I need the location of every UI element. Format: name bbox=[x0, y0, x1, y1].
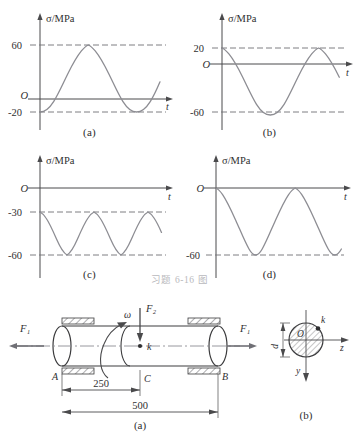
origin-label-c: O bbox=[20, 183, 28, 194]
dim-250-arrow-right bbox=[131, 387, 140, 392]
omega-arrow-head bbox=[117, 322, 127, 329]
y-axis-arrow-b bbox=[219, 13, 224, 20]
chart-panel-b: σ/MPa t 20 -60 O (b) bbox=[180, 0, 359, 150]
x-axis-arrow-b bbox=[346, 61, 353, 66]
point-k-label: k bbox=[147, 341, 152, 352]
ytick-a-neg20: -20 bbox=[8, 107, 22, 118]
diameter-arrow-top bbox=[281, 323, 286, 331]
chart-b-sublabel: (b) bbox=[180, 126, 359, 138]
curve-b bbox=[222, 48, 339, 115]
x-axis-label-c: t bbox=[168, 191, 171, 202]
origin-label-b: O bbox=[202, 59, 210, 70]
shaft-figure-sublabel: (a) bbox=[134, 419, 147, 432]
omega-label: ω bbox=[124, 309, 131, 320]
cross-section-sublabel: (b) bbox=[300, 409, 313, 422]
diameter-arrow-bottom bbox=[281, 349, 286, 357]
x-axis-label-b: t bbox=[346, 67, 349, 78]
support-left-top bbox=[62, 318, 94, 324]
y-axis-arrow-d bbox=[213, 155, 218, 162]
section-y-arrow bbox=[303, 373, 309, 382]
x-axis-arrow-c bbox=[166, 185, 173, 190]
origin-label-d: O bbox=[196, 183, 204, 194]
x-axis-arrow-d bbox=[344, 185, 351, 190]
y-axis-label-a: σ/MPa bbox=[46, 13, 75, 24]
y-axis-arrow-a bbox=[37, 13, 42, 20]
x-axis-label-d: t bbox=[344, 191, 347, 202]
y-axis-label-b: σ/MPa bbox=[228, 13, 257, 24]
dim-500-label: 500 bbox=[132, 400, 148, 411]
ytick-d-neg60: -60 bbox=[186, 250, 200, 261]
dim-250-arrow-left bbox=[62, 387, 71, 392]
force-left-label: F₁ bbox=[19, 323, 30, 334]
dim-500-arrow-left bbox=[62, 409, 71, 414]
section-origin-label: O bbox=[297, 329, 304, 339]
figure-caption: 习题 6-16 图 bbox=[0, 272, 359, 286]
support-a-label: A bbox=[51, 371, 59, 382]
support-left-bottom bbox=[62, 368, 94, 374]
curve-a bbox=[40, 45, 160, 112]
force-transverse-arrow bbox=[137, 333, 143, 342]
dim-250-label: 250 bbox=[93, 378, 109, 389]
ytick-c-neg60: -60 bbox=[8, 250, 22, 261]
ytick-a-60: 60 bbox=[12, 40, 23, 51]
dim-500-arrow-right bbox=[209, 409, 218, 414]
section-k-label: k bbox=[321, 315, 326, 325]
y-axis-arrow-c bbox=[37, 155, 42, 162]
force-transverse-label: F₂ bbox=[145, 303, 156, 314]
x-axis-label-a: t bbox=[166, 101, 169, 112]
section-z-label: z bbox=[339, 343, 344, 353]
curve-c bbox=[40, 212, 162, 255]
shaft-figure-group: F₁ F₁ F₂ ω k A B C 250 500 (a) bbox=[0, 300, 359, 432]
ytick-b-20: 20 bbox=[194, 43, 205, 54]
omega-arc bbox=[101, 324, 122, 378]
figure-page: σ/MPa t 60 -20 O (a) σ/MPa t 20 -60 O (b… bbox=[0, 0, 359, 432]
cross-section-group: d O z y k (b) bbox=[270, 310, 349, 422]
curve-d bbox=[216, 188, 341, 255]
y-axis-label-d: σ/MPa bbox=[222, 155, 251, 166]
origin-label-a: O bbox=[20, 90, 28, 101]
section-c-label: C bbox=[144, 373, 151, 384]
section-y-label: y bbox=[295, 366, 301, 376]
support-b-label: B bbox=[222, 371, 228, 382]
ytick-c-neg30: -30 bbox=[8, 207, 22, 218]
section-point-k-marker bbox=[316, 326, 321, 331]
force-right-arrow bbox=[249, 343, 257, 349]
force-left-arrow bbox=[9, 343, 17, 349]
ytick-b-neg60: -60 bbox=[190, 107, 204, 118]
chart-a-sublabel: (a) bbox=[0, 126, 179, 138]
y-axis-label-c: σ/MPa bbox=[46, 155, 75, 166]
chart-panel-a: σ/MPa t 60 -20 O (a) bbox=[0, 0, 179, 150]
support-right-top bbox=[188, 318, 220, 324]
diameter-label: d bbox=[270, 344, 280, 349]
support-right-bottom bbox=[188, 368, 220, 374]
section-z-arrow bbox=[341, 337, 349, 343]
force-right-label: F₁ bbox=[239, 323, 250, 334]
shaft-figure-svg: F₁ F₁ F₂ ω k A B C 250 500 (a) bbox=[0, 300, 359, 432]
point-k-marker bbox=[138, 344, 142, 348]
